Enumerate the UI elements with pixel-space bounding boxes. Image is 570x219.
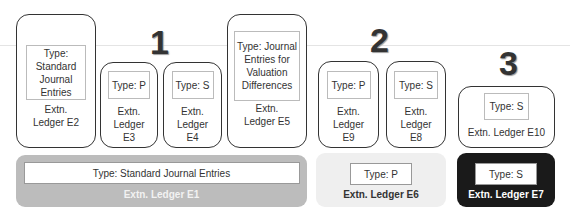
ledger-name: Extn. Ledger E10 [459, 126, 554, 139]
ledger-name: Extn. Ledger E7 [468, 188, 544, 201]
ledger-e8: Type: S Extn. Ledger E8 [386, 61, 446, 148]
ledger-e4: Type: S Extn. Ledger E4 [163, 62, 222, 148]
base-ledger-e7: Type: S Extn. Ledger E7 [457, 153, 555, 207]
ledger-type: Type: P [350, 163, 412, 185]
ledger-name: Extn. Ledger E2 [31, 103, 81, 129]
ledger-e2: Type: Standard Journal Entries Extn. Led… [16, 14, 96, 148]
base-ledger-e1: Type: Standard Journal Entries Extn. Led… [16, 155, 307, 207]
ledger-e5: Type: Journal Entries for Valuation Diff… [227, 14, 307, 148]
ledger-name: Extn. Ledger E9 [327, 105, 371, 144]
ledger-type: Type: S [475, 163, 537, 185]
ledger-name: Extn. Ledger E8 [394, 105, 438, 144]
ledger-name: Extn. Ledger E1 [124, 188, 200, 201]
base-ledger-e6: Type: P Extn. Ledger E6 [316, 153, 446, 207]
ledger-type: Type: Standard Journal Entries [24, 162, 300, 184]
ledger-name: Extn. Ledger E3 [107, 105, 151, 144]
group-number-2: 2 [370, 23, 389, 57]
group-number-3: 3 [499, 46, 518, 80]
group-number-1: 1 [150, 25, 169, 59]
ledger-type: Type: S [172, 71, 214, 99]
ledger-type: Type: Standard Journal Entries [26, 45, 86, 100]
ledger-type: Type: P [108, 71, 150, 99]
ledger-e3: Type: P Extn. Ledger E3 [100, 62, 158, 148]
ledger-e10: Type: S Extn. Ledger E10 [458, 86, 555, 148]
ledger-name: Extn. Ledger E6 [343, 188, 419, 201]
ledger-name: Extn. Ledger E5 [242, 102, 292, 128]
ledger-type: Type: P [327, 71, 371, 99]
ledger-name: Extn. Ledger E4 [171, 105, 215, 144]
ledger-type: Type: S [484, 93, 529, 120]
ledger-type: Type: Journal Entries for Valuation Diff… [234, 31, 300, 101]
ledger-type: Type: S [394, 71, 438, 99]
ledger-e9: Type: P Extn. Ledger E9 [318, 61, 379, 148]
